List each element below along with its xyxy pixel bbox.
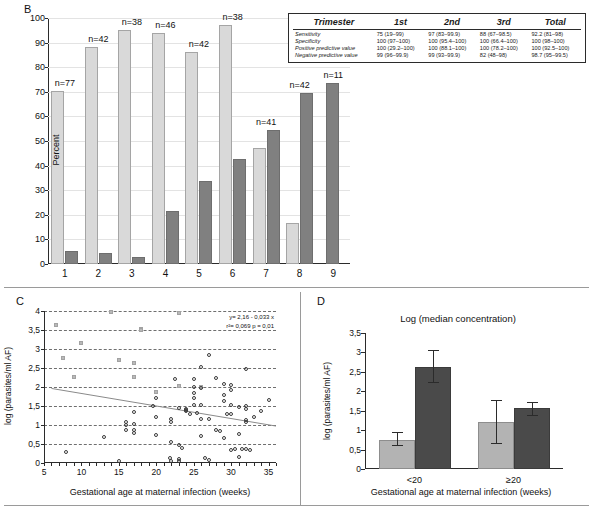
data-point-filled (79, 341, 83, 345)
table-cell: 92.2 (81–98) (529, 30, 581, 38)
data-point-filled (177, 311, 181, 315)
table-cell: 100 (78.2–100) (478, 44, 530, 51)
data-point-open (64, 450, 68, 454)
x-tick-label: 25 (189, 467, 198, 477)
table-cell: 100 (97–100) (375, 37, 427, 44)
error-bar-cap-bottom (491, 443, 502, 444)
data-point-open (199, 386, 203, 390)
x-category-label: 6 (230, 268, 236, 279)
x-tick-mark (269, 463, 270, 466)
data-point-open (132, 431, 136, 435)
data-point-open (151, 404, 155, 408)
error-bar (433, 350, 434, 382)
data-point-open (229, 383, 233, 387)
x-tick-mark (276, 463, 277, 466)
data-point-open (169, 420, 173, 424)
x-tick-mark (81, 463, 82, 466)
table-row: Sensitivity75 (19–99)97 (83–99.9)88 (67–… (293, 30, 581, 38)
data-point-open (177, 459, 181, 463)
table-cell: 100 (95.4–100) (426, 37, 478, 44)
x-tick-mark (59, 463, 60, 466)
table-row-header: Positive predictive value (293, 44, 375, 51)
data-point-open (267, 398, 271, 402)
bar-dark (65, 251, 78, 264)
group-n-label: n=38 (222, 12, 242, 22)
y-tick-label: 70 (35, 87, 45, 97)
data-point-open (132, 422, 136, 426)
x-tick-mark (156, 463, 157, 466)
data-point-open (229, 412, 233, 416)
x-category-label: 4 (163, 268, 169, 279)
figure-root: B 1009080706050403020100 n=771n=422n=383… (0, 0, 593, 512)
table-cell: 100 (66.4–100) (478, 37, 530, 44)
x-tick-mark (89, 463, 90, 466)
bar-light (253, 148, 266, 264)
x-tick-mark (66, 463, 67, 466)
data-point-open (188, 412, 192, 416)
group-n-label: n=38 (122, 17, 142, 27)
y-tick-label: 0,5 (349, 445, 361, 455)
data-point-open (229, 403, 233, 407)
table-column-header: Total (529, 16, 581, 30)
x-category-label: 8 (297, 268, 303, 279)
data-point-open (199, 403, 203, 407)
error-bar-cap-bottom (392, 445, 403, 446)
data-point-open (248, 448, 252, 452)
panel-divider-vertical (300, 292, 301, 505)
y-tick-label: 3,5 (349, 328, 361, 338)
data-point-filled (61, 356, 65, 360)
x-tick-mark (254, 463, 255, 466)
x-tick-mark (74, 463, 75, 466)
bar-dark (132, 257, 145, 264)
data-point-open (154, 433, 158, 437)
bar-light (219, 25, 232, 264)
data-point-filled (72, 375, 76, 379)
panel-c: C 43,532,521,510,50 5101520253035 y= 2,1… (0, 291, 300, 506)
x-tick-mark (96, 463, 97, 466)
bar-light (152, 33, 165, 264)
table-cell: 100 (98–100) (529, 37, 581, 44)
table-cell: 75 (19–99) (375, 30, 427, 38)
x-category-label: 1 (62, 268, 68, 279)
bar-dark (267, 130, 280, 264)
bar-group: n=383 (115, 18, 149, 264)
group-n-label: n=11 (323, 70, 343, 80)
table-cell: 100 (29.2–100) (375, 44, 427, 51)
data-point-open (244, 420, 248, 424)
x-tick-label: 30 (226, 467, 235, 477)
x-tick-label: 35 (264, 467, 273, 477)
y-tick-label: 30 (35, 185, 45, 195)
x-tick-mark (194, 463, 195, 466)
error-bar (397, 432, 398, 445)
x-category-label: <20 (407, 475, 422, 485)
bar-light (118, 30, 131, 264)
data-point-filled (177, 384, 181, 388)
bar-dark (326, 83, 339, 264)
x-tick-mark (51, 463, 52, 466)
x-tick-mark (164, 463, 165, 466)
data-point-filled (54, 323, 58, 327)
data-point-open (222, 399, 226, 403)
y-tick-label: 90 (35, 38, 45, 48)
x-category-label: 5 (196, 268, 202, 279)
panel-divider-horizontal (4, 287, 589, 288)
group-n-label: n=42 (189, 39, 209, 49)
data-point-open (207, 417, 211, 421)
table-header-row: Trimester1st2nd3rdTotal (293, 16, 581, 30)
data-point-open (132, 410, 136, 414)
y-tick-label: 20 (35, 210, 45, 220)
data-point-open (237, 432, 241, 436)
y-tick-label: 0 (35, 458, 40, 468)
x-tick-mark (201, 463, 202, 466)
regression-stats: r²= 0,069 p = 0,01 (226, 322, 274, 331)
data-point-open (199, 434, 203, 438)
data-point-open (207, 353, 211, 357)
error-bar-cap-top (392, 432, 403, 433)
x-tick-mark (231, 463, 232, 466)
y-tick-label: 40 (35, 161, 45, 171)
group-n-label: n=42 (290, 80, 310, 90)
data-point-open (192, 391, 196, 395)
y-tick-label: 80 (35, 62, 45, 72)
group-n-label: n=41 (256, 117, 276, 127)
table-column-header: 2nd (426, 16, 478, 30)
